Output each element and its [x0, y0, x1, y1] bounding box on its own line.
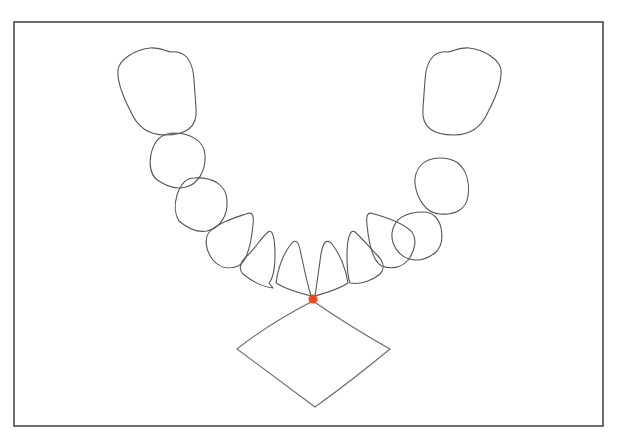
tooth-left-premolar-1: [206, 213, 253, 268]
tooth-right-premolar-2: [392, 212, 442, 260]
tooth-right-premolar-1: [367, 213, 415, 268]
tooth-left-premolar-2: [175, 178, 227, 231]
tooth-right-molar-1: [415, 158, 469, 214]
tooth-left-molar-1: [150, 133, 205, 188]
tooth-left-canine: [240, 231, 275, 288]
tooth-right-molar-2: [423, 48, 501, 135]
midpoint-marker[interactable]: [309, 295, 318, 304]
teeth-outline-group: [118, 48, 501, 296]
lower-fan-outline: [237, 301, 390, 407]
tooth-left-molar-2: [118, 48, 196, 135]
dental-arch-diagram: [0, 0, 619, 440]
tooth-left-lateral-incisor: [276, 241, 311, 296]
tooth-right-lateral-incisor: [315, 241, 348, 296]
frame-border: [14, 22, 603, 426]
tooth-right-canine: [347, 231, 383, 283]
